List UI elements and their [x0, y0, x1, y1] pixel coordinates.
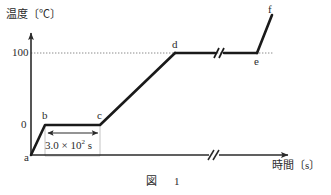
curve-segment-ef — [257, 15, 272, 53]
duration-unit: s — [85, 139, 92, 151]
x-axis-title: 時間〔s〕 — [272, 160, 320, 171]
y-tick-label-0: 0 — [21, 119, 27, 130]
duration-mantissa: 3.0 × 10 — [45, 139, 81, 151]
point-label-b: b — [42, 110, 48, 121]
point-label-a: a — [24, 152, 29, 163]
point-label-c: c — [97, 110, 102, 121]
x-axis-break-icon — [208, 150, 219, 160]
y-tick-label-100: 100 — [12, 47, 29, 58]
point-label-f: f — [268, 4, 272, 15]
figure-caption: 図 1 — [146, 176, 183, 187]
point-label-d: d — [172, 39, 178, 50]
point-label-e: e — [254, 56, 259, 67]
figure-container: 温度〔℃〕 時間〔s〕 100 0 a b c d e f 3.0 × 102 … — [0, 0, 331, 195]
duration-annotation: 3.0 × 102 s — [45, 139, 92, 151]
y-axis-title: 温度〔℃〕 — [6, 9, 61, 20]
